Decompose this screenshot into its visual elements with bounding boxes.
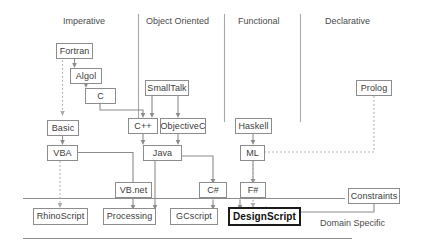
node-vba[interactable]: VBA [47,145,78,161]
node-constraints[interactable]: Constraints [348,188,400,204]
node-processing[interactable]: Processing [103,208,156,225]
node-fortran[interactable]: Fortran [56,43,93,59]
label-domain-specific: Domain Specific [320,219,385,228]
column-header-object-oriented: Object Oriented [146,17,209,26]
node-vbnet[interactable]: VB.net [115,182,152,198]
node-smalltalk[interactable]: SmallTalk [145,80,189,96]
node-fsharp[interactable]: F# [240,182,266,198]
column-header-declarative: Declarative [325,17,370,26]
node-cpp[interactable]: C++ [128,118,158,134]
node-java[interactable]: Java [143,145,182,161]
node-ml[interactable]: ML [240,145,265,161]
node-c[interactable]: C [85,88,116,104]
column-dividers [139,14,301,122]
column-header-imperative: Imperative [63,17,105,26]
column-header-functional: Functional [238,17,280,26]
node-basic[interactable]: Basic [47,120,79,136]
node-objectivec[interactable]: ObjectiveC [160,118,206,134]
diagram-canvas: Imperative Object Oriented Functional De… [0,0,424,249]
node-haskell[interactable]: Haskell [235,118,272,134]
node-prolog[interactable]: Prolog [356,80,392,96]
node-designscript[interactable]: DesignScript [228,207,301,226]
node-csharp[interactable]: C# [199,182,227,198]
node-rhinoscript[interactable]: RhinoScript [33,208,88,225]
node-algol[interactable]: Algol [70,68,102,84]
node-gcscript[interactable]: GCscript [170,208,218,225]
